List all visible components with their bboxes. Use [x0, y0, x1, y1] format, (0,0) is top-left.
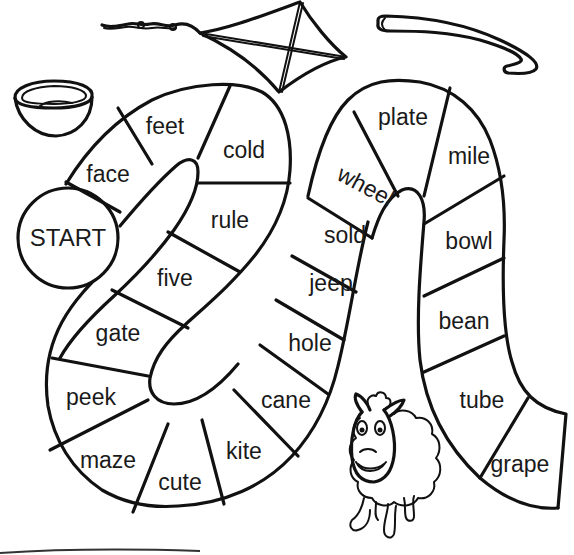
space-peek[interactable]: peek	[66, 384, 116, 410]
space-bean[interactable]: bean	[438, 308, 489, 334]
space-cane[interactable]: cane	[261, 387, 311, 413]
space-tube[interactable]: tube	[460, 387, 505, 413]
space-bowl[interactable]: bowl	[445, 228, 492, 254]
space-face[interactable]: face	[86, 161, 129, 187]
space-maze[interactable]: maze	[80, 447, 136, 473]
space-gate[interactable]: gate	[96, 320, 141, 346]
space-jeep[interactable]: jeep	[308, 270, 352, 296]
space-sold[interactable]: sold	[324, 222, 366, 248]
space-cute[interactable]: cute	[158, 469, 201, 495]
space-wheel[interactable]: wheel	[332, 160, 398, 212]
sheep-icon	[350, 392, 441, 537]
space-rule[interactable]: rule	[211, 207, 249, 233]
cane-icon	[378, 16, 537, 74]
bowl-icon	[15, 81, 92, 136]
space-kite[interactable]: kite	[226, 438, 262, 464]
page-edge	[0, 550, 200, 553]
space-start[interactable]: START	[30, 224, 107, 251]
board-final: START face feet cold rule five gate peek…	[0, 0, 574, 555]
space-plate[interactable]: plate	[378, 104, 428, 130]
space-five[interactable]: five	[157, 265, 193, 291]
space-grape[interactable]: grape	[491, 451, 550, 477]
space-hole[interactable]: hole	[288, 330, 331, 356]
space-feet[interactable]: feet	[146, 113, 185, 139]
kite-icon	[102, 2, 346, 92]
space-mile[interactable]: mile	[448, 143, 490, 169]
space-cold[interactable]: cold	[223, 137, 265, 163]
